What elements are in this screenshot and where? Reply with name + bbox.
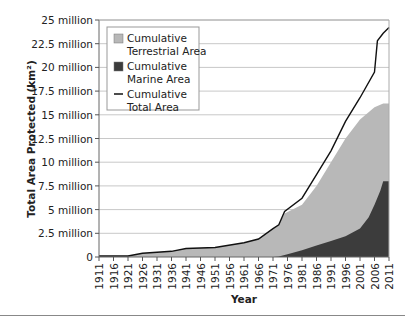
x-tick-label: 2011 xyxy=(383,263,395,290)
y-tick-label: 17.5 million xyxy=(31,85,93,97)
x-tick-label: 1996 xyxy=(340,263,352,290)
terrestrial-area xyxy=(99,103,389,257)
legend-label: Total Area xyxy=(126,101,179,113)
x-tick-label: 2001 xyxy=(354,263,366,290)
bottom-divider xyxy=(0,315,405,316)
x-tick-label: 2006 xyxy=(369,263,381,290)
x-tick-label: 1981 xyxy=(296,263,308,290)
x-tick-label: 1941 xyxy=(180,263,192,290)
legend-swatch xyxy=(114,62,123,71)
x-axis-ticks: 1911191619211926193119361941194619511956… xyxy=(93,257,395,290)
x-tick-label: 1966 xyxy=(253,263,265,290)
y-tick-label: 20 million xyxy=(41,61,93,73)
legend-swatch xyxy=(114,34,123,43)
legend-label: Cumulative xyxy=(127,88,187,100)
x-tick-label: 1951 xyxy=(209,263,221,290)
y-tick-label: 25 million xyxy=(41,14,93,26)
x-tick-label: 1911 xyxy=(93,263,105,290)
y-tick-label: 5 million xyxy=(48,204,93,216)
x-tick-label: 1946 xyxy=(195,263,207,290)
x-tick-label: 1916 xyxy=(108,263,120,290)
y-tick-label: 2.5 million xyxy=(38,227,93,239)
x-tick-label: 1991 xyxy=(325,263,337,290)
x-tick-label: 1926 xyxy=(137,263,149,290)
y-tick-label: 10 million xyxy=(41,156,93,168)
x-tick-label: 1921 xyxy=(122,263,134,290)
x-tick-label: 1971 xyxy=(267,263,279,290)
legend: CumulativeTerrestrial AreaCumulativeMari… xyxy=(107,27,206,113)
y-tick-label: 22.5 million xyxy=(31,38,93,50)
x-tick-label: 1976 xyxy=(282,263,294,290)
y-tick-label: 7.5 million xyxy=(38,180,93,192)
y-tick-label: 0 xyxy=(86,251,93,263)
x-tick-label: 1956 xyxy=(224,263,236,290)
x-tick-label: 1986 xyxy=(311,263,323,290)
x-tick-label: 1931 xyxy=(151,263,163,290)
legend-label: Cumulative xyxy=(127,32,187,44)
legend-label: Terrestrial Area xyxy=(126,45,206,57)
y-axis-title: Total Area Protected (km²) xyxy=(25,60,37,217)
y-axis-ticks: 02.5 million5 million7.5 million10 milli… xyxy=(31,14,99,263)
area-chart: 02.5 million5 million7.5 million10 milli… xyxy=(0,0,405,321)
x-axis-title: Year xyxy=(230,293,258,305)
y-tick-label: 12.5 million xyxy=(31,133,93,145)
legend-label: Cumulative xyxy=(127,60,187,72)
y-tick-label: 15 million xyxy=(41,109,93,121)
x-tick-label: 1961 xyxy=(238,263,250,290)
x-tick-label: 1936 xyxy=(166,263,178,290)
legend-label: Marine Area xyxy=(127,73,190,85)
